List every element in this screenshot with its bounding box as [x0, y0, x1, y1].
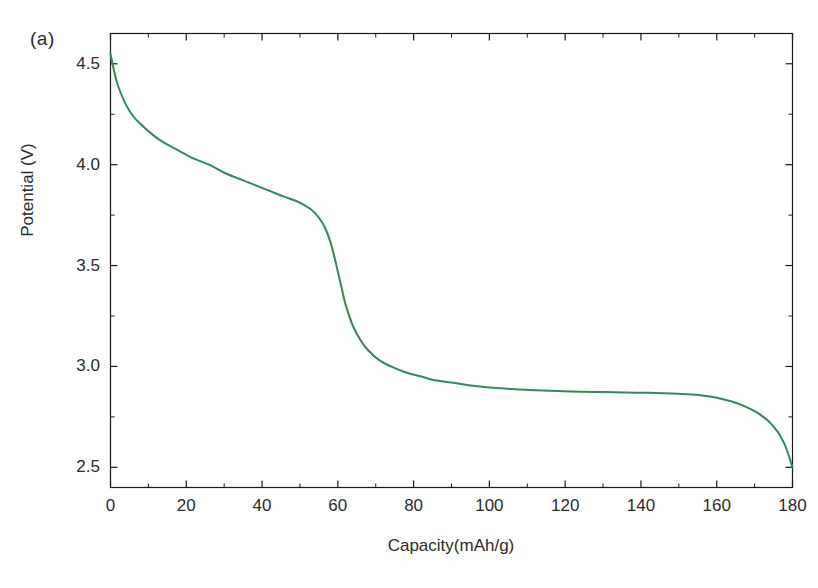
x-axis-label: Capacity(mAh/g) — [110, 536, 792, 556]
axes-frame — [111, 34, 793, 488]
y-tick-label: 3.5 — [44, 256, 100, 276]
x-tick-label: 60 — [308, 496, 368, 516]
y-tick-label: 3.0 — [44, 356, 100, 376]
x-tick-label: 20 — [156, 496, 216, 516]
x-tick-label: 180 — [763, 496, 818, 516]
x-tick-label: 160 — [687, 496, 747, 516]
x-tick-label: 0 — [81, 496, 141, 516]
plot-frame — [111, 34, 793, 488]
x-axis-tick-labels: 020406080100120140160180 — [0, 496, 818, 526]
y-tick-label: 4.0 — [44, 155, 100, 175]
x-tick-label: 120 — [535, 496, 595, 516]
x-tick-label: 80 — [384, 496, 444, 516]
x-tick-label: 40 — [232, 496, 292, 516]
y-tick-label: 4.5 — [44, 54, 100, 74]
y-axis-label: Potential (V) — [18, 100, 38, 280]
x-tick-label: 100 — [459, 496, 519, 516]
series-line-0 — [111, 54, 793, 468]
y-tick-label: 2.5 — [44, 457, 100, 477]
data-series — [111, 54, 793, 468]
figure-panel-a: (a) Potential (V) Capacity(mAh/g) 2.53.0… — [0, 0, 818, 588]
axis-ticks — [111, 34, 793, 488]
x-tick-label: 140 — [611, 496, 671, 516]
